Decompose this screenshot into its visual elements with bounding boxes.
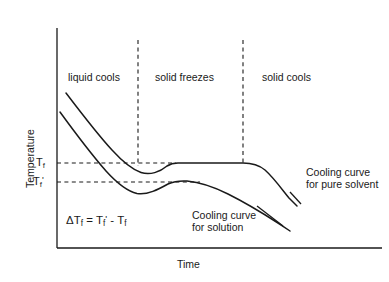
delta-t: T [74, 214, 81, 226]
curve-label-pure-solvent: Cooling curve for pure solvent [306, 166, 378, 191]
curve-label-pure-solvent-line2: for pure solvent [306, 178, 378, 190]
tf-prime-main: T [33, 175, 40, 187]
y-tick-label-tf: Tf [36, 156, 45, 170]
equals-symbol: = [86, 214, 93, 226]
curve-label-solution: Cooling curve for solution [192, 209, 256, 234]
tf-subscript: f [43, 161, 45, 170]
delta-t-subscript: f [81, 219, 83, 228]
tf-main: T [36, 156, 43, 168]
curve-label-pure-solvent-line1: Cooling curve [306, 166, 378, 178]
tf-prime-mark: ' [42, 175, 44, 185]
curve-label-solution-line2: for solution [192, 221, 256, 233]
curve-label-solution-line1: Cooling curve [192, 209, 256, 221]
delta-tf-annotation: ΔTf = Tf' - Tf [66, 213, 127, 228]
x-axis-label: Time [177, 258, 200, 270]
region-dividers [138, 40, 243, 166]
curve-pure-solvent [66, 93, 297, 206]
minus-symbol: - [110, 214, 114, 226]
cooling-curve-figure: Temperature Time Tf Tf' liquid cools sol… [0, 0, 389, 282]
region-label-liquid-cools: liquid cools [68, 71, 120, 83]
leader-pure-solvent [290, 192, 301, 204]
cooling-curve-plot [0, 0, 389, 282]
region-label-solid-cools: solid cools [262, 71, 311, 83]
tf-prime-term-mark: ' [105, 213, 107, 224]
tf-prime-term: T [96, 214, 103, 226]
leader-solution [257, 206, 283, 226]
region-label-solid-freezes: solid freezes [155, 71, 214, 83]
delta-symbol: Δ [66, 214, 74, 226]
tf-term-subscript: f [124, 219, 126, 228]
y-tick-label-tf-prime: Tf' [33, 175, 44, 189]
